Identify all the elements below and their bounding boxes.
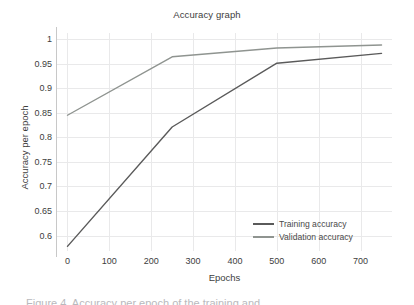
legend-item[interactable]: Training accuracy bbox=[253, 219, 353, 229]
x-axis-tick-labels: 0100200300400500600700 bbox=[57, 256, 392, 270]
legend-item[interactable]: Validation accuracy bbox=[253, 232, 353, 242]
series-line bbox=[67, 45, 381, 115]
figure-caption-sliver: Figure 4. Accuracy per epoch of the trai… bbox=[26, 297, 296, 305]
series-line bbox=[67, 53, 381, 246]
chart-title: Accuracy graph bbox=[0, 9, 414, 20]
y-axis-label: Accuracy per epoch bbox=[19, 58, 30, 238]
x-tick-label: 400 bbox=[227, 256, 242, 266]
y-tick-label: 0.85 bbox=[34, 108, 52, 118]
x-tick-label: 200 bbox=[144, 256, 159, 266]
y-tick-label: 0.9 bbox=[39, 83, 52, 93]
legend-label: Validation accuracy bbox=[279, 232, 353, 242]
legend-label: Training accuracy bbox=[279, 219, 347, 229]
chart-legend: Training accuracyValidation accuracy bbox=[253, 219, 353, 242]
y-tick-label: 0.65 bbox=[34, 206, 52, 216]
x-axis-label: Epochs bbox=[57, 272, 392, 283]
y-tick-label: 0.7 bbox=[39, 181, 52, 191]
x-tick-label: 700 bbox=[353, 256, 368, 266]
x-tick-label: 100 bbox=[102, 256, 117, 266]
y-tick-label: 0.95 bbox=[34, 59, 52, 69]
legend-color-swatch bbox=[253, 236, 274, 238]
x-tick-label: 500 bbox=[269, 256, 284, 266]
y-tick-label: 0.8 bbox=[39, 132, 52, 142]
x-tick-label: 600 bbox=[311, 256, 326, 266]
legend-color-swatch bbox=[253, 223, 274, 225]
x-tick-label: 0 bbox=[65, 256, 70, 266]
y-tick-label: 0.6 bbox=[39, 231, 52, 241]
accuracy-graph-figure: Accuracy graph 0.60.650.70.750.80.850.90… bbox=[0, 0, 414, 305]
x-tick-label: 300 bbox=[186, 256, 201, 266]
y-tick-label: 0.75 bbox=[34, 157, 52, 167]
y-tick-label: 1 bbox=[47, 34, 52, 44]
